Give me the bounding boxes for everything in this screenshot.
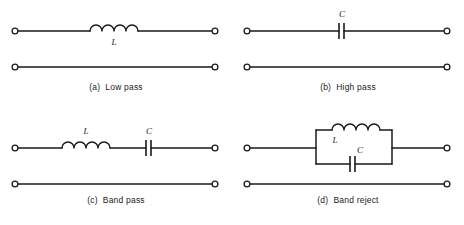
terminal-bottom-left xyxy=(244,64,250,70)
capacitor-label: C xyxy=(357,145,364,155)
inductor-coil xyxy=(62,142,110,148)
panel-caption-c: (c) Band pass xyxy=(0,195,232,205)
panel-caption-b: (b) High pass xyxy=(232,82,464,92)
terminal-top-left xyxy=(244,28,250,34)
circuit-diagram-low-pass: L xyxy=(0,0,232,112)
terminal-top-right xyxy=(444,145,450,151)
inductor-coil xyxy=(332,124,380,130)
terminal-top-right xyxy=(212,28,218,34)
terminal-top-left xyxy=(12,28,18,34)
terminal-bottom-right xyxy=(444,181,450,187)
filter-circuits-figure: L (a) Low pass C (b) High pass xyxy=(0,0,464,225)
circuit-diagram-band-reject: L C xyxy=(232,113,464,225)
terminal-top-right xyxy=(212,145,218,151)
inductor-label: L xyxy=(110,37,116,47)
terminal-bottom-right xyxy=(444,64,450,70)
panel-high-pass: C (b) High pass xyxy=(232,0,464,112)
terminal-top-left xyxy=(244,145,250,151)
capacitor-label: C xyxy=(146,126,153,136)
circuit-diagram-high-pass: C xyxy=(232,0,464,112)
circuit-diagram-band-pass: L C xyxy=(0,113,232,225)
capacitor-label: C xyxy=(339,9,346,19)
terminal-bottom-left xyxy=(244,181,250,187)
panel-caption-a: (a) Low pass xyxy=(0,82,232,92)
panel-band-pass: L C (c) Band pass xyxy=(0,113,232,225)
terminal-bottom-left xyxy=(12,64,18,70)
terminal-bottom-right xyxy=(212,181,218,187)
terminal-top-left xyxy=(12,145,18,151)
panel-caption-d: (d) Band reject xyxy=(232,195,464,205)
terminal-top-right xyxy=(444,28,450,34)
inductor-coil xyxy=(90,25,138,31)
inductor-label: L xyxy=(82,126,88,136)
terminal-bottom-left xyxy=(12,181,18,187)
panel-low-pass: L (a) Low pass xyxy=(0,0,232,112)
inductor-label: L xyxy=(331,135,337,145)
panel-band-reject: L C (d) Band reject xyxy=(232,113,464,225)
terminal-bottom-right xyxy=(212,64,218,70)
